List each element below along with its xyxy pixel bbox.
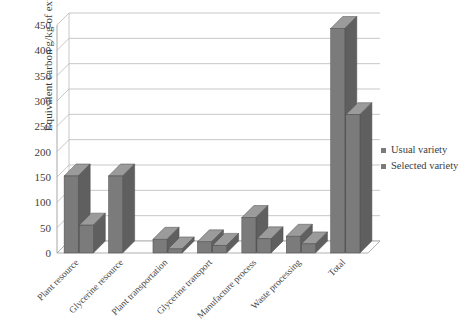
- legend-item-usual-variety: Usual variety: [381, 143, 458, 157]
- svg-text:350: 350: [35, 70, 52, 82]
- bars-layer: [64, 17, 372, 253]
- svg-text:200: 200: [35, 146, 52, 158]
- svg-text:250: 250: [35, 120, 52, 132]
- legend-swatch-icon: [381, 148, 386, 153]
- svg-text:150: 150: [35, 171, 52, 183]
- legend-label: Selected variety: [391, 159, 458, 173]
- svg-text:450: 450: [35, 19, 52, 31]
- legend-label: Usual variety: [391, 143, 447, 157]
- y-axis-ticks: 050100150200250300350400450: [35, 19, 52, 259]
- chart-legend: Usual variety Selected variety: [381, 143, 458, 175]
- svg-text:0: 0: [46, 247, 52, 259]
- x-axis-label: Plant resource: [35, 257, 80, 302]
- bar: [109, 164, 135, 253]
- x-axis-label: Total: [326, 257, 347, 278]
- svg-text:100: 100: [35, 196, 52, 208]
- chart-container: Equivalent carbon g/kg of extract 050100…: [0, 0, 475, 333]
- svg-text:400: 400: [35, 44, 52, 56]
- legend-swatch-icon: [381, 164, 386, 169]
- svg-text:50: 50: [40, 222, 52, 234]
- bar: [346, 103, 372, 253]
- legend-item-selected-variety: Selected variety: [381, 159, 458, 173]
- svg-text:300: 300: [35, 95, 52, 107]
- x-axis-labels: Plant resourceGlycerine resourcePlant tr…: [35, 257, 347, 320]
